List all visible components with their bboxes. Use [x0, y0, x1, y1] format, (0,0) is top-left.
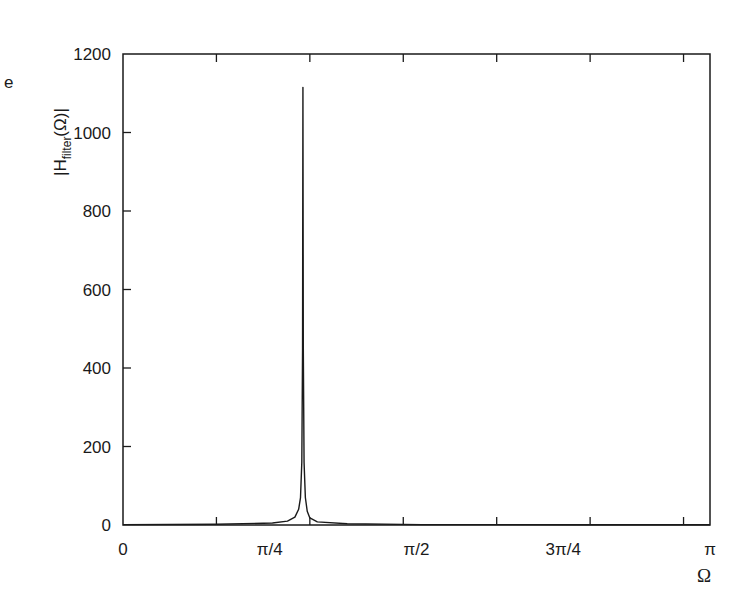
x-axis-label: Ω	[697, 565, 711, 586]
series-line	[123, 87, 710, 524]
svg-text:|Hfilter(Ω)|: |Hfilter(Ω)|	[51, 108, 74, 176]
y-tick-label: 1000	[73, 124, 111, 143]
x-tick-label: 3π/4	[546, 540, 581, 559]
x-tick-label: π/4	[257, 540, 283, 559]
y-axis-label-subscript: filter	[60, 137, 74, 160]
chart-figure: e |Hfilter(Ω)| 020040060080010001200 0π/…	[0, 0, 743, 616]
y-axis-label: |Hfilter(Ω)|	[51, 108, 74, 176]
y-axis-label-tail: (Ω)|	[51, 108, 70, 136]
y-tick-label: 0	[102, 516, 111, 535]
x-axis-ticks: 0π/4π/23π/4π	[118, 54, 716, 559]
y-tick-label: 400	[83, 359, 111, 378]
x-tick-label: 0	[118, 540, 127, 559]
data-series	[123, 87, 710, 524]
y-tick-label: 200	[83, 438, 111, 457]
y-tick-label: 800	[83, 202, 111, 221]
x-tick-label: π	[704, 540, 716, 559]
plot-frame	[123, 54, 710, 525]
y-axis-label-main: |H	[51, 159, 70, 176]
cropped-text-fragment: e	[4, 73, 13, 92]
x-tick-label: π/2	[404, 540, 430, 559]
y-tick-label: 1200	[73, 45, 111, 64]
y-tick-label: 600	[83, 281, 111, 300]
